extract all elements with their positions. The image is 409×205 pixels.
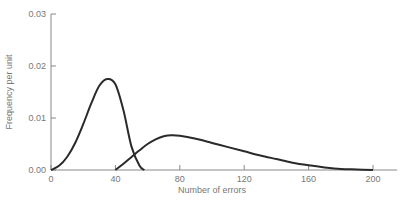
x-tick-label: 200	[365, 174, 380, 184]
chart: 0.000.010.020.0304080120160200 Number of…	[0, 0, 409, 205]
x-tick-label: 40	[110, 174, 120, 184]
x-tick-label: 80	[175, 174, 185, 184]
axes: 0.000.010.020.0304080120160200	[28, 9, 397, 184]
y-tick-label: 0.01	[28, 113, 46, 123]
x-tick-label: 160	[301, 174, 316, 184]
y-tick-label: 0.00	[28, 165, 46, 175]
x-tick-label: 0	[48, 174, 53, 184]
x-tick-label: 120	[237, 174, 252, 184]
series-line-2	[115, 135, 373, 170]
x-axis-label: Number of errors	[178, 185, 247, 195]
series-line-1	[51, 79, 144, 170]
y-tick-label: 0.02	[28, 61, 46, 71]
y-tick-label: 0.03	[28, 9, 46, 19]
plot-area	[51, 79, 373, 170]
y-axis-label: Frequency per unit	[4, 54, 14, 130]
